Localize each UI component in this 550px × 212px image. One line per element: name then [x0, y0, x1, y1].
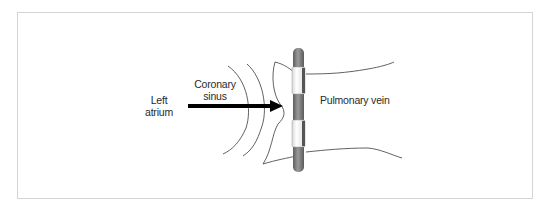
- vein-upper-wall: [306, 62, 394, 74]
- label-coronary-sinus-line2: sinus: [191, 90, 239, 102]
- lasso-catheter: [292, 48, 305, 172]
- label-pulmonary-vein: Pulmonary vein: [320, 94, 390, 106]
- ostium-lower-contour: [263, 156, 296, 164]
- label-coronary-sinus: Coronary sinus: [191, 78, 239, 102]
- label-left-atrium: Left atrium: [139, 94, 179, 118]
- pulmonary-vein-walls: [306, 62, 402, 158]
- electrode-upper-band: [302, 68, 305, 93]
- pulmonary-vein-catheter-diagram: [0, 0, 550, 212]
- vein-lower-wall: [306, 148, 402, 158]
- label-left-atrium-line2: atrium: [139, 106, 179, 118]
- wall-curve-2: [243, 64, 264, 156]
- electrode-lower-band: [302, 121, 305, 146]
- wall-curve-3: [263, 62, 284, 164]
- label-coronary-sinus-line1: Coronary: [191, 78, 239, 90]
- catheter-shaft: [293, 48, 304, 172]
- label-left-atrium-line1: Left: [139, 94, 179, 106]
